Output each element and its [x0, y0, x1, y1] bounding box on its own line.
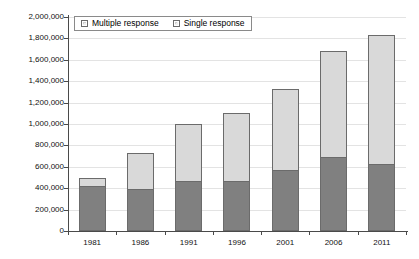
bar-slot — [309, 17, 357, 231]
bar-slot — [261, 17, 309, 231]
bar-segment-single-response[interactable] — [175, 124, 202, 181]
y-axis-tick-label: 1,000,000 — [28, 120, 64, 128]
y-axis-tick-label: 1,200,000 — [28, 99, 64, 107]
x-axis-tick-label: 2006 — [309, 238, 357, 252]
y-axis-tick-label: 1,400,000 — [28, 77, 64, 85]
x-axis-labels: 1981198619911996200120062011 — [68, 238, 406, 252]
bar-slot — [68, 17, 116, 231]
bar-stack[interactable] — [79, 178, 106, 231]
y-axis-tick-label: 200,000 — [35, 206, 64, 214]
legend-item-multiple-response[interactable]: Multiple response — [81, 19, 159, 28]
x-axis-tick-label: 2001 — [261, 238, 309, 252]
bar-stack[interactable] — [127, 153, 154, 231]
y-axis-tick-label: 400,000 — [35, 184, 64, 192]
bar-series-container — [68, 17, 406, 231]
bar-segment-multiple-response[interactable] — [127, 189, 154, 231]
bar-stack[interactable] — [320, 51, 347, 231]
bar-segment-single-response[interactable] — [127, 153, 154, 189]
legend-swatch-icon — [81, 20, 88, 27]
bar-segment-multiple-response[interactable] — [79, 186, 106, 231]
x-axis-tick — [358, 231, 359, 235]
x-axis-tick-label: 2011 — [358, 238, 406, 252]
chart-legend: Multiple response Single response — [74, 16, 252, 31]
legend-label: Multiple response — [92, 19, 159, 28]
bar-stack[interactable] — [272, 89, 299, 231]
x-axis-tick-label: 1991 — [165, 238, 213, 252]
bar-stack[interactable] — [368, 35, 395, 231]
bar-segment-multiple-response[interactable] — [175, 181, 202, 231]
y-axis-labels: 0200,000400,000600,000800,0001,000,0001,… — [0, 17, 64, 231]
x-axis-tick — [309, 231, 310, 235]
bar-slot — [116, 17, 164, 231]
x-axis-line — [66, 231, 408, 232]
bar-slot — [165, 17, 213, 231]
bar-segment-multiple-response[interactable] — [272, 170, 299, 231]
bar-slot — [213, 17, 261, 231]
x-axis-tick — [213, 231, 214, 235]
bar-segment-single-response[interactable] — [368, 35, 395, 164]
x-axis-tick-label: 1981 — [68, 238, 116, 252]
legend-label: Single response — [184, 19, 245, 28]
y-axis-tick-label: 1,800,000 — [28, 34, 64, 42]
bar-segment-multiple-response[interactable] — [368, 164, 395, 231]
x-axis-tick — [406, 231, 407, 235]
bar-slot — [358, 17, 406, 231]
bar-stack[interactable] — [175, 124, 202, 231]
bar-segment-single-response[interactable] — [272, 89, 299, 170]
y-axis-tick-label: 800,000 — [35, 141, 64, 149]
stacked-bar-chart: 0200,000400,000600,000800,0001,000,0001,… — [0, 0, 419, 259]
x-axis-tick — [116, 231, 117, 235]
bar-segment-single-response[interactable] — [223, 113, 250, 181]
legend-item-single-response[interactable]: Single response — [173, 19, 245, 28]
x-axis-tick — [261, 231, 262, 235]
bar-stack[interactable] — [223, 113, 250, 231]
y-axis-tick-label: 2,000,000 — [28, 13, 64, 21]
bar-segment-multiple-response[interactable] — [223, 181, 250, 231]
y-axis-tick-label: 600,000 — [35, 163, 64, 171]
x-axis-tick-label: 1986 — [116, 238, 164, 252]
y-axis-tick-label: 1,600,000 — [28, 56, 64, 64]
bar-segment-single-response[interactable] — [79, 178, 106, 186]
x-axis-tick — [165, 231, 166, 235]
x-axis-tick-label: 1996 — [213, 238, 261, 252]
legend-swatch-icon — [173, 20, 180, 27]
bar-segment-multiple-response[interactable] — [320, 157, 347, 231]
x-axis-tick — [68, 231, 69, 235]
bar-segment-single-response[interactable] — [320, 51, 347, 157]
